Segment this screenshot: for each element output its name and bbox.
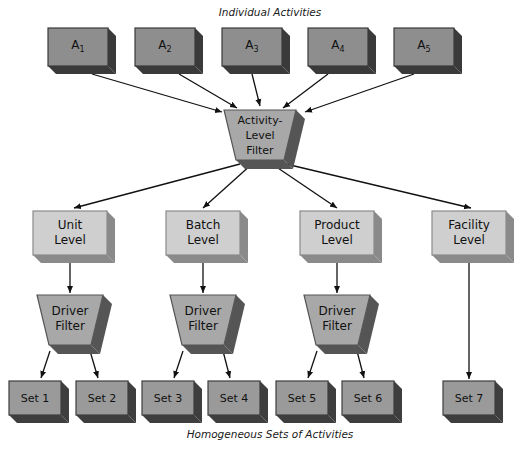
- set-label-4: Set 4: [220, 391, 249, 406]
- edge-a3-to-filter: [252, 74, 260, 106]
- set-label-1: Set 1: [21, 391, 50, 406]
- activity-filter-label: Activity-LevelFilter: [238, 113, 283, 158]
- set-label-5: Set 5: [288, 391, 317, 406]
- edge-filter-to-level-2: [203, 164, 252, 208]
- edge-driver-2-to-set-4: [223, 351, 230, 378]
- activity-label-a3: A3: [245, 38, 258, 57]
- edge-driver-1-to-set-1: [41, 351, 50, 378]
- level-label-3: ProductLevel: [314, 218, 360, 248]
- activity-label-a2: A2: [158, 38, 171, 57]
- activity-label-a1: A1: [71, 38, 84, 57]
- edge-driver-3-to-set-5: [308, 351, 317, 378]
- top-caption: Individual Activities: [219, 6, 322, 18]
- set-label-2: Set 2: [88, 391, 117, 406]
- level-label-1: UnitLevel: [54, 218, 86, 248]
- set-label-3: Set 3: [154, 391, 183, 406]
- edge-filter-to-level-1: [74, 164, 240, 208]
- edge-driver-2-to-set-3: [174, 351, 183, 378]
- bottom-caption: Homogeneous Sets of Activities: [187, 428, 354, 440]
- set-label-6: Set 6: [354, 391, 383, 406]
- edge-a2-to-filter: [179, 74, 237, 108]
- edge-filter-to-level-3: [272, 164, 337, 208]
- level-label-4: FacilityLevel: [448, 218, 490, 248]
- level-label-2: BatchLevel: [186, 218, 221, 248]
- driver-filter-label-3: DriverFilter: [319, 304, 356, 334]
- set-label-7: Set 7: [455, 391, 484, 406]
- driver-filter-label-1: DriverFilter: [52, 304, 89, 334]
- edge-a4-to-filter: [283, 74, 328, 108]
- edge-filter-to-level-4: [286, 164, 471, 208]
- activity-label-a5: A5: [417, 38, 430, 57]
- edge-a1-to-filter: [92, 74, 222, 112]
- driver-filter-label-2: DriverFilter: [185, 304, 222, 334]
- edge-driver-1-to-set-2: [90, 351, 98, 378]
- activity-label-a4: A4: [331, 38, 344, 57]
- edge-driver-3-to-set-6: [357, 351, 364, 378]
